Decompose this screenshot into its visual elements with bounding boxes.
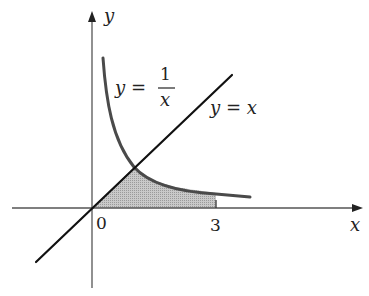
tick-label-3: 3: [210, 215, 221, 235]
shaded-region: [92, 167, 216, 208]
curve-label-numerator: 1: [160, 64, 171, 84]
tick-label-0: 0: [96, 213, 107, 233]
area-between-curves-figure: y x 0 3 y = 1 x y = x: [0, 0, 369, 296]
line-label: y = x: [209, 97, 257, 118]
line-identity: [36, 75, 232, 262]
x-axis-label: x: [350, 214, 360, 235]
x-axis-arrow-icon: [352, 204, 363, 212]
curve-label-lhs: y =: [114, 77, 146, 98]
y-axis-arrow-icon: [88, 11, 96, 22]
y-axis-label: y: [103, 5, 115, 26]
curve-label-denominator: x: [160, 89, 170, 110]
